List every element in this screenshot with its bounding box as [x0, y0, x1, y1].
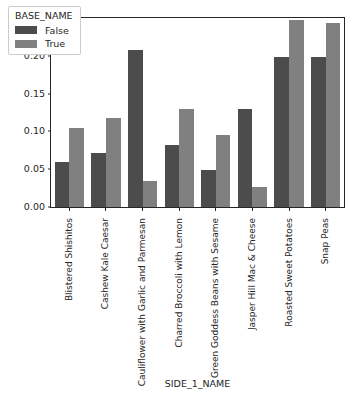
bar [238, 109, 253, 207]
legend-label-false: False [45, 26, 69, 36]
legend-swatch-true [15, 40, 37, 48]
x-tick-mark [179, 207, 180, 211]
legend-swatch-false [15, 26, 37, 34]
bar [106, 118, 121, 207]
legend-item-true: True [15, 39, 73, 49]
x-tick-label: Snap Peas [321, 218, 330, 264]
bar [274, 57, 289, 207]
bar [143, 181, 158, 207]
x-tick-label: Green Goddess Beans with Sesame [211, 218, 220, 378]
bar-chart-figure: 0.000.050.100.150.200.25Blistered Shishi… [0, 0, 350, 407]
bar [128, 50, 143, 207]
legend-item-false: False [15, 26, 73, 36]
x-tick-label: Jasper Hill Mac & Cheese [248, 218, 257, 330]
bar [201, 170, 216, 207]
bar [165, 145, 180, 207]
bar [179, 109, 194, 207]
x-tick-mark [289, 207, 290, 211]
plot-area: 0.000.050.100.150.200.25Blistered Shishi… [50, 17, 345, 208]
x-tick-label: Roasted Sweet Potatoes [285, 218, 294, 327]
bar [216, 135, 231, 207]
x-tick-mark [142, 207, 143, 211]
legend-title: BASE_NAME [15, 11, 73, 21]
bar [326, 23, 341, 207]
bar [252, 187, 267, 207]
x-tick-label: Cauliflower with Garlic and Parmesan [138, 218, 147, 386]
bar [91, 153, 106, 207]
x-tick-mark [215, 207, 216, 211]
y-tick-label: 0.10 [24, 127, 51, 137]
x-tick-mark [105, 207, 106, 211]
legend-label-true: True [45, 39, 65, 49]
x-tick-mark [325, 207, 326, 211]
x-tick-mark [252, 207, 253, 211]
y-tick-label: 0.05 [24, 164, 51, 174]
y-tick-label: 0.15 [24, 89, 51, 99]
bar [69, 128, 84, 207]
y-tick-label: 0.00 [24, 202, 51, 212]
bar [55, 162, 70, 207]
x-tick-label: Charred Broccoli with Lemon [175, 218, 184, 347]
x-tick-label: Cashew Kale Caesar [101, 218, 110, 309]
bar [289, 20, 304, 207]
legend: BASE_NAME False True [8, 6, 81, 55]
x-tick-mark [69, 207, 70, 211]
x-tick-label: Blistered Shishitos [65, 218, 74, 301]
bar [311, 57, 326, 207]
x-axis-title: SIDE_1_NAME [50, 378, 345, 389]
